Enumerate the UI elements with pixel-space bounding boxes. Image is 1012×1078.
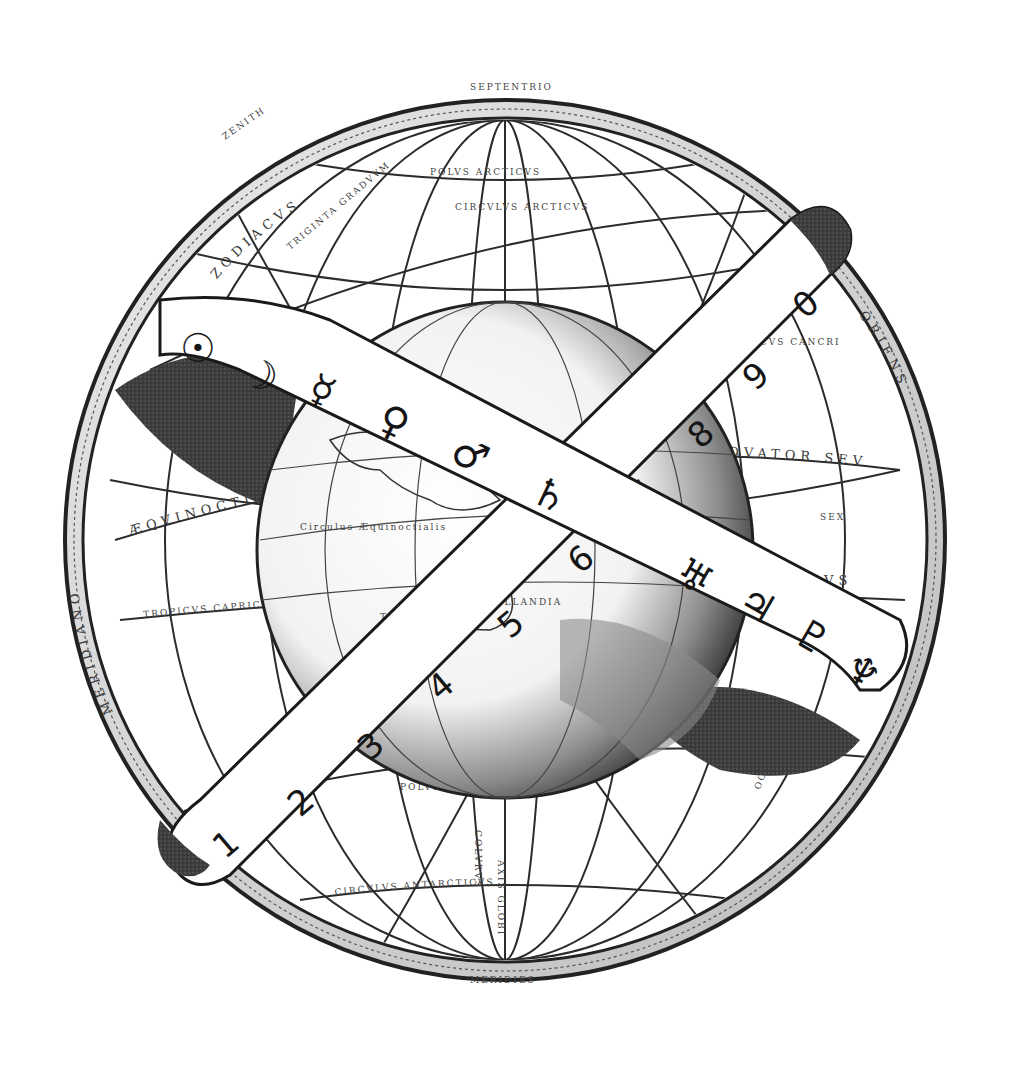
sun-symbol-icon: ☉ [180,325,216,371]
label-septentrio: SEPTENTRIO [470,82,553,92]
label-circulus-arcticus: CIRCVLVS ARCTICVS [455,202,589,212]
armillary-sphere-illustration: SEPTENTRIO MERIDIES ZODIACVS ORIENS MERI… [0,0,1012,1078]
label-axis-globi: AXIS GLOBI [496,859,506,936]
label-colurus: COLVRVS [473,830,483,889]
label-sex: SEX [820,512,845,522]
label-circulus-aequinoctialis: Circulus Æquinoctialis [300,522,447,532]
label-meridies: MERIDIES [470,975,536,985]
label-polus-arcticus: POLVS ARCTICVS [430,167,541,177]
label-zenith: ZENITH [220,105,267,142]
